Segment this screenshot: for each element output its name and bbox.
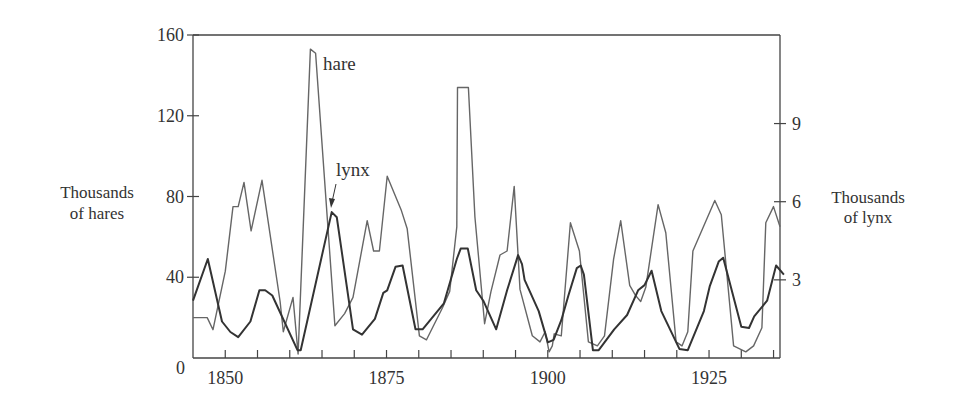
origin-zero-label: 0	[176, 358, 185, 378]
left-tick-label: 80	[166, 187, 184, 207]
lynx-series-line	[193, 212, 784, 350]
x-tick-label: 1850	[207, 368, 243, 388]
x-tick-label: 1925	[691, 368, 727, 388]
left-tick-label: 120	[157, 106, 184, 126]
hare-series-label: hare	[323, 53, 356, 74]
lynx-pointer-arrow-icon	[329, 184, 336, 208]
right-tick-label: 6	[792, 192, 801, 212]
right-axis-ticks: 369	[774, 114, 801, 290]
left-axis-label-line2: of hares	[70, 204, 124, 223]
lynx-series-label: lynx	[336, 159, 370, 180]
x-axis-ticks: 1850187519001925	[207, 350, 773, 388]
left-tick-label: 160	[157, 25, 184, 45]
x-tick-label: 1900	[530, 368, 566, 388]
right-axis-label-line1: Thousands	[831, 188, 905, 207]
left-axis-label-line1: Thousands	[60, 183, 134, 202]
hare-lynx-chart: 1850187519001925 4080120160 369 0 hare l…	[0, 0, 962, 405]
left-tick-label: 40	[166, 267, 184, 287]
right-tick-label: 3	[792, 270, 801, 290]
right-tick-label: 9	[792, 114, 801, 134]
right-axis-label-line2: of lynx	[844, 208, 893, 227]
x-tick-label: 1875	[369, 368, 405, 388]
